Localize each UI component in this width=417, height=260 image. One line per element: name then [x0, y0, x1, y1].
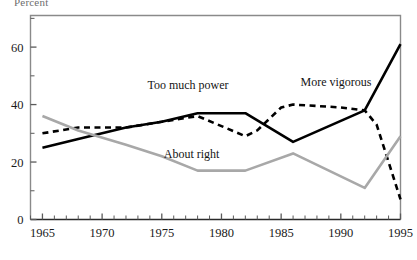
x-tick-label: 1980 — [209, 226, 234, 240]
plot-frame — [31, 16, 401, 220]
series-lines — [42, 44, 400, 199]
series-line-too-much-power — [42, 44, 400, 147]
x-tick-label: 1995 — [388, 226, 413, 240]
x-tick-label: 1965 — [30, 226, 55, 240]
y-tick-label: 0 — [17, 213, 23, 227]
series-label-too-much-power: Too much power — [147, 78, 228, 92]
y-tick-label: 40 — [11, 98, 24, 112]
line-chart: 1965197019751980198519901995 0204060 Too… — [0, 0, 417, 260]
series-label-about-right: About right — [164, 147, 220, 161]
y-axis-ticks — [31, 18, 37, 219]
x-tick-label: 1990 — [328, 226, 353, 240]
x-tick-label: 1985 — [269, 226, 294, 240]
y-axis-labels: 0204060 — [11, 41, 24, 227]
y-tick-label: 60 — [11, 41, 24, 55]
x-tick-label: 1975 — [149, 226, 174, 240]
y-tick-label: 20 — [11, 156, 24, 170]
chart-container: Percent 1965197019751980198519901995 020… — [0, 0, 417, 260]
x-axis-labels: 1965197019751980198519901995 — [30, 226, 413, 240]
x-tick-label: 1970 — [90, 226, 115, 240]
series-label-more-vigorous: More vigorous — [301, 75, 372, 89]
chart-title: Percent — [14, 0, 48, 8]
x-axis-ticks — [31, 214, 401, 220]
